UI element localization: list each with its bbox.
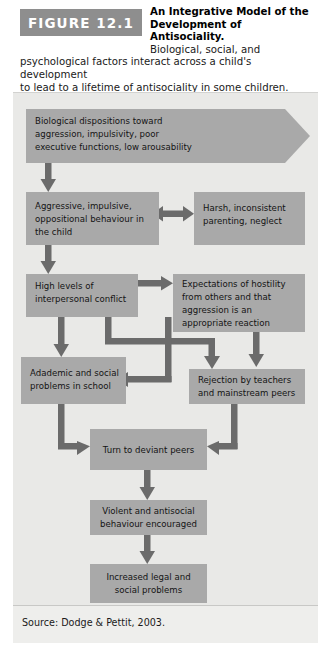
figure-source-bar: Source: Dodge & Pettit, 2003. bbox=[13, 605, 318, 643]
node-harsh-line-2: parenting, neglect bbox=[203, 216, 283, 226]
node-rejection-line-2: and mainstream peers bbox=[198, 388, 296, 398]
node-biological-line-3: executive functions, low arousability bbox=[35, 142, 192, 152]
node-increased-legal-problems: Increased legal and social problems bbox=[90, 564, 207, 603]
node-rejection-line-1: Rejection by teachers bbox=[198, 375, 292, 385]
node-legal-line-2: social problems bbox=[115, 585, 183, 595]
edge-deviant-to-violent bbox=[140, 470, 156, 500]
figure-caption-line-1: Biological, social, and bbox=[20, 44, 312, 57]
figure-title-line-2: Development of Antisociality. bbox=[20, 19, 312, 44]
edge-biological-to-aggressive bbox=[41, 163, 57, 192]
figure-title-line-1: An Integrative Model of the bbox=[20, 6, 312, 19]
node-expectations-line-3: aggression is an bbox=[182, 305, 252, 315]
edge-conflict-to-expectations bbox=[138, 276, 173, 291]
edge-academic-to-deviant bbox=[58, 404, 90, 455]
source-text: Source: Dodge & Pettit, 2003. bbox=[22, 617, 165, 628]
node-aggressive-line-2: oppositional behaviour in bbox=[35, 214, 144, 224]
node-academic-problems: Adademic and social problems in school bbox=[21, 357, 126, 404]
edge-violent-to-legal bbox=[140, 535, 156, 564]
node-expectations-line-1: Expectations of hostility bbox=[182, 279, 285, 289]
node-violent-antisocial: Violent and antisocial behaviour encoura… bbox=[90, 500, 207, 535]
node-academic-line-1: Adademic and social bbox=[30, 368, 119, 378]
figure-container: FIGURE 12.1 An Integrative Model of the … bbox=[0, 0, 331, 659]
node-biological-line-1: Biological dispositions toward bbox=[35, 116, 162, 126]
figure-caption-line-2: psychological factors interact across a … bbox=[20, 56, 312, 81]
node-violent-line-2: behaviour encouraged bbox=[100, 519, 197, 529]
node-turn-deviant-peers: Turn to deviant peers bbox=[90, 429, 207, 470]
edge-conflict-to-academic bbox=[54, 317, 70, 357]
diagram-canvas: Biological dispositions toward aggressio… bbox=[13, 93, 318, 606]
edge-rejection-to-deviant bbox=[207, 404, 238, 455]
node-harsh-line-1: Harsh, inconsistent bbox=[203, 203, 286, 213]
node-biological-dispositions: Biological dispositions toward aggressio… bbox=[26, 109, 310, 163]
node-conflict-line-2: interpersonal conflict bbox=[35, 294, 127, 304]
node-academic-line-2: problems in school bbox=[30, 381, 111, 391]
flowchart-svg: Biological dispositions toward aggressio… bbox=[13, 93, 318, 606]
node-expectations-hostility: Expectations of hostility from others an… bbox=[173, 274, 305, 332]
node-legal-line-1: Increased legal and bbox=[106, 572, 190, 582]
node-expectations-line-4: appropriate reaction bbox=[182, 318, 270, 328]
node-biological-line-2: aggression, impulsivity, poor bbox=[35, 129, 160, 139]
node-conflict-line-1: High levels of bbox=[35, 281, 94, 291]
diagram-panel: Biological dispositions toward aggressio… bbox=[13, 92, 318, 605]
figure-header: FIGURE 12.1 An Integrative Model of the … bbox=[0, 0, 331, 92]
node-interpersonal-conflict: High levels of interpersonal conflict bbox=[26, 274, 138, 317]
node-harsh-parenting: Harsh, inconsistent parenting, neglect bbox=[194, 192, 305, 245]
node-rejection-teachers: Rejection by teachers and mainstream pee… bbox=[189, 369, 305, 404]
node-aggressive-line-3: the child bbox=[35, 227, 72, 237]
node-aggressive-impulsive: Aggressive, impulsive, oppositional beha… bbox=[26, 192, 159, 245]
figure-caption-block: An Integrative Model of the Development … bbox=[20, 6, 312, 94]
node-expectations-line-2: from others and that bbox=[182, 292, 272, 302]
edge-aggressive-to-conflict bbox=[41, 245, 57, 274]
node-aggressive-line-1: Aggressive, impulsive, bbox=[35, 201, 132, 211]
node-violent-line-1: Violent and antisocial bbox=[102, 506, 194, 516]
node-deviant-line-1: Turn to deviant peers bbox=[102, 445, 195, 455]
